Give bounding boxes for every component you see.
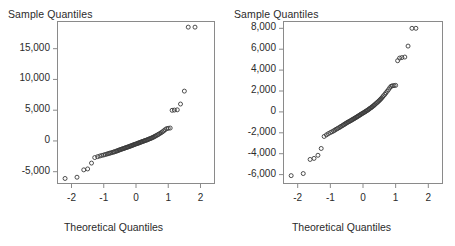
qq-plot-panel-left: Sample Quantiles -5,00005,00010,00015,00… [0, 0, 227, 246]
data-point [312, 156, 316, 160]
data-point [86, 167, 90, 171]
data-point [75, 175, 79, 179]
data-point [63, 176, 67, 180]
data-point [319, 146, 323, 150]
data-point [308, 157, 312, 161]
data-point [406, 44, 410, 48]
qq-plot-panel-right: Sample Quantiles -6,000-4,000-2,00002,00… [228, 0, 455, 246]
data-point [175, 108, 179, 112]
x-axis-label-right: Theoretical Quantiles [228, 221, 455, 233]
qq-plot-figure: Sample Quantiles -5,00005,00010,00015,00… [0, 0, 455, 246]
data-point [193, 25, 197, 29]
data-point [182, 89, 186, 93]
data-point [90, 161, 94, 165]
data-point [289, 174, 293, 178]
data-point [82, 168, 86, 172]
data-point [414, 26, 418, 30]
data-points-right [228, 0, 455, 246]
data-point [316, 153, 320, 157]
data-point [410, 26, 414, 30]
data-points-left [0, 0, 227, 246]
data-point [186, 25, 190, 29]
data-point [301, 172, 305, 176]
data-point [179, 102, 183, 106]
x-axis-label-left: Theoretical Quantiles [0, 221, 227, 233]
